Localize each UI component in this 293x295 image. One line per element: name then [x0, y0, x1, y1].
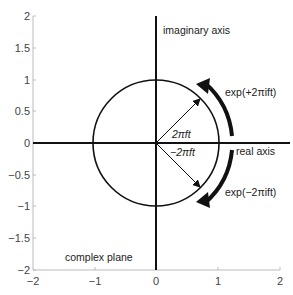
y-tick: 0.5 [15, 105, 30, 117]
y-tick: 1.5 [15, 42, 30, 54]
vector-down-label: −2πft [170, 146, 196, 158]
x-tick: 0 [153, 275, 159, 287]
y-tick: −1.5 [8, 232, 30, 244]
arrow-down-label: exp(−2πift) [225, 186, 276, 198]
complex-plane-diagram: 2 1.5 1 0.5 0 −0.5 −1 −1.5 −2 −2 −1 0 1 … [0, 0, 293, 295]
vector-up-label: 2πft [171, 128, 192, 140]
y-tick: −0.5 [8, 169, 30, 181]
y-tick: 1 [24, 74, 30, 86]
y-tick: −1 [17, 200, 30, 212]
x-tick: 1 [215, 275, 221, 287]
x-tick: −1 [89, 275, 102, 287]
imaginary-axis-label: imaginary axis [163, 24, 230, 36]
arrow-up-label: exp(+2πift) [225, 86, 276, 98]
arc-arrowhead-down-icon [196, 192, 210, 208]
x-tick: 2 [277, 275, 283, 287]
real-axis-label: real axis [236, 145, 275, 157]
y-tick: 0 [24, 137, 30, 149]
plot-title: complex plane [65, 251, 133, 263]
arc-arrowhead-up-icon [196, 78, 210, 94]
x-tick: −2 [27, 275, 40, 287]
y-tick-labels: 2 1.5 1 0.5 0 −0.5 −1 −1.5 −2 [8, 10, 30, 276]
y-tick: 2 [24, 10, 30, 22]
x-tick-labels: −2 −1 0 1 2 [27, 275, 283, 287]
